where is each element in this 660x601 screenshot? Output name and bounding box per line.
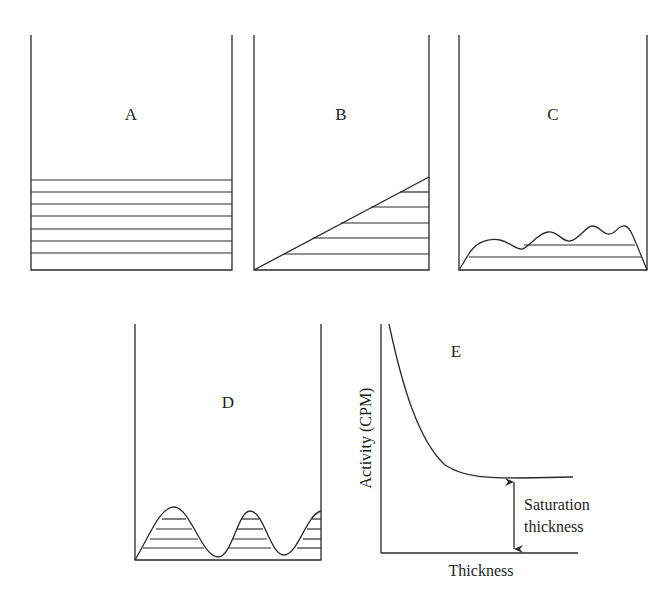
sample-geometry-diagram: A B C [0,0,660,601]
panel-label-e: E [451,342,461,361]
y-axis-label: Activity (CPM) [357,388,375,489]
panel-label-a: A [125,105,138,124]
activity-curve [389,324,573,478]
sample-layers [469,245,641,257]
container-outline [31,35,232,270]
annotation-saturation: Saturation [524,496,590,513]
panel-label-d: D [222,393,234,412]
panel-d: D [135,324,321,560]
panel-a: A [31,35,232,270]
sample-surface [459,226,647,270]
container-outline [135,324,321,560]
panel-e-activity-graph: E Saturation thickness Thickness Activit… [357,324,590,579]
sample-layers [31,180,232,253]
container-outline [254,35,429,270]
sample-layers [143,519,321,548]
panel-b: B [254,35,429,270]
container-outline [459,35,647,270]
sample-layers [284,192,429,254]
sample-surface [135,507,321,560]
annotation-thickness: thickness [524,518,584,535]
panel-label-b: B [335,105,346,124]
panel-c: C [459,35,647,270]
x-axis-label: Thickness [449,562,514,579]
panel-label-c: C [547,105,558,124]
